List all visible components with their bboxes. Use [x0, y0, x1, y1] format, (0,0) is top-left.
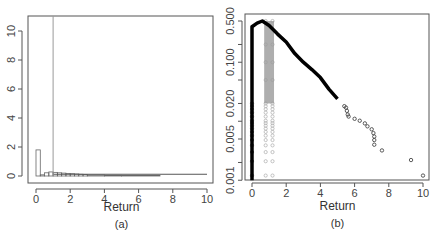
gray-point — [264, 115, 267, 118]
tail-point — [370, 128, 373, 131]
panel-a-histogram: 02468100246810Return(a) — [5, 16, 213, 230]
panel-label: (b) — [331, 217, 344, 229]
tail-point — [345, 109, 348, 112]
histogram-bar — [83, 175, 87, 176]
y-tick-label: 0.005 — [224, 125, 236, 153]
histogram-bar — [36, 150, 40, 176]
tail-point — [373, 135, 376, 138]
gray-point — [271, 144, 274, 147]
gray-point — [264, 134, 267, 137]
x-axis-title: Return — [103, 200, 139, 214]
y-tick-label: 0 — [5, 173, 17, 179]
y-tick-label: 6 — [5, 86, 17, 92]
x-tick-label: 4 — [317, 187, 323, 199]
gray-point — [264, 138, 267, 141]
y-tick-label: 0.100 — [224, 48, 236, 76]
gray-point — [271, 119, 274, 122]
gray-point — [271, 115, 274, 118]
x-tick-label: 8 — [170, 193, 176, 205]
x-tick-label: 10 — [201, 193, 213, 205]
histogram-bar — [45, 173, 49, 176]
tail-point — [353, 117, 356, 120]
gray-point — [271, 150, 274, 153]
x-tick-label: 0 — [33, 193, 39, 205]
x-tick-label: 6 — [352, 187, 358, 199]
y-tick-label: 0.020 — [224, 90, 236, 118]
panel-b-log-scatter: 02468100.0010.0050.0200.1000.500Return(b… — [224, 7, 429, 229]
y-tick-label: 2 — [5, 144, 17, 150]
tail-point — [380, 149, 383, 152]
figure: 02468100246810Return(a) 02468100.0010.00… — [0, 0, 441, 239]
x-tick-label: 0 — [249, 187, 255, 199]
tail-point — [363, 122, 366, 125]
gray-point — [271, 130, 274, 133]
y-tick-label: 4 — [5, 115, 17, 121]
x-tick-label: 10 — [417, 187, 429, 199]
y-tick-label: 0.500 — [224, 7, 236, 35]
gray-point — [271, 174, 274, 177]
gray-point — [264, 111, 267, 114]
gray-point — [271, 111, 274, 114]
histogram-bar — [104, 175, 121, 176]
gray-band — [264, 21, 274, 103]
tail-point — [373, 143, 376, 146]
gray-point — [271, 160, 274, 163]
gray-point — [271, 138, 274, 141]
tail-point — [421, 174, 424, 177]
tail-point — [409, 158, 412, 161]
gray-point — [264, 144, 267, 147]
gray-point — [264, 150, 267, 153]
tail-point — [358, 119, 361, 122]
tail-point — [366, 125, 369, 128]
histogram-bar — [49, 172, 53, 176]
x-axis-title: Return — [319, 199, 355, 213]
gray-point — [264, 160, 267, 163]
tail-point — [372, 131, 375, 134]
y-tick-label: 0.001 — [224, 166, 236, 194]
x-tick-label: 8 — [386, 187, 392, 199]
gray-point — [271, 134, 274, 137]
gray-point — [264, 119, 267, 122]
y-tick-label: 8 — [5, 57, 17, 63]
histogram-bar — [40, 175, 44, 176]
histogram-bar — [87, 175, 104, 176]
plot-frame — [28, 16, 213, 183]
x-tick-label: 2 — [283, 187, 289, 199]
tail-point — [373, 138, 376, 141]
gray-point — [264, 174, 267, 177]
panel-label: (a) — [115, 218, 128, 230]
y-tick-label: 10 — [5, 25, 17, 37]
gray-point — [264, 130, 267, 133]
x-tick-label: 2 — [67, 193, 73, 205]
